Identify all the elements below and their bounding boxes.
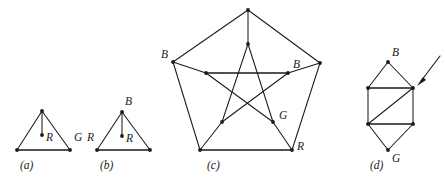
panel-c-outer-edges — [173, 10, 320, 150]
vertex-inner-upper-left — [204, 71, 208, 75]
vertex-inner-top — [246, 42, 250, 46]
vertex-inner-lower-left — [220, 120, 224, 124]
edge-outer-top-upper-right — [248, 10, 320, 63]
arrow-shaft — [421, 56, 440, 81]
panel-a: R G (a) — [15, 109, 83, 172]
panel-c-inner-edges — [206, 44, 288, 122]
figure-canvas: R G (a) B R R (b) — [0, 0, 445, 186]
vertex-label-b: B — [125, 95, 132, 107]
vertex-bottom — [386, 148, 390, 152]
edge-outer-upper-right-lower-right — [292, 63, 320, 150]
edge-apex-right — [122, 112, 150, 150]
panel-b-nodes — [95, 110, 152, 152]
edge-diagonal-chord — [368, 88, 413, 124]
vertex-apex — [120, 110, 124, 114]
vertex-lower-right — [411, 122, 415, 126]
panel-b-edges — [97, 112, 150, 150]
vertex-outer-upper-right — [318, 61, 322, 65]
vertex-upper-left — [366, 86, 370, 90]
vertex-inner-lower-right — [271, 120, 275, 124]
edge-inner-top-lower-right — [248, 44, 273, 122]
panel-d-edges — [368, 62, 413, 150]
edge-outer-upper-left-lower-left — [173, 62, 200, 150]
vertex-top — [386, 60, 390, 64]
vertex-apex — [40, 109, 44, 113]
vertex-label-r-left: R — [86, 131, 94, 143]
caption-a: (a) — [20, 159, 34, 172]
vertex-label-g: G — [392, 152, 401, 164]
vertex-outer-lower-left — [198, 148, 202, 152]
vertex-outer-upper-left — [171, 60, 175, 64]
vertex-left — [15, 148, 19, 152]
vertex-label-b-inner: B — [293, 58, 300, 70]
vertex-center — [40, 133, 44, 137]
vertex-outer-top — [246, 8, 250, 12]
edge-spoke-upper-left — [173, 62, 206, 73]
vertex-label-b: B — [392, 46, 399, 58]
edge-inner-upper-left-lower-right — [206, 73, 273, 122]
edge-top-upper-left — [368, 62, 388, 88]
vertex-outer-lower-right — [290, 148, 294, 152]
edge-apex-left — [17, 111, 42, 150]
graph-coloring-figure: R G (a) B R R (b) — [0, 0, 445, 186]
vertex-right — [148, 148, 152, 152]
edge-top-upper-right — [388, 62, 413, 88]
vertex-upper-right — [411, 86, 415, 90]
panel-a-edges — [17, 111, 70, 150]
vertex-label-r: R — [45, 131, 53, 143]
vertex-inner-upper-right — [286, 71, 290, 75]
edge-apex-left — [97, 112, 122, 150]
panel-c: B B G R (c) — [161, 8, 322, 172]
panel-a-nodes — [15, 109, 72, 152]
panel-b: B R R (b) — [86, 95, 152, 172]
vertex-label-r-center: R — [125, 132, 133, 144]
edge-spoke-lower-right — [273, 122, 292, 150]
vertex-lower-left — [366, 122, 370, 126]
caption-c: (c) — [207, 159, 220, 172]
vertex-label-r: R — [296, 140, 304, 152]
edge-inner-top-lower-left — [222, 44, 248, 122]
arrow-head — [417, 77, 426, 86]
panel-c-spoke-edges — [173, 10, 320, 150]
pointer-arrow-icon — [417, 56, 440, 86]
edge-spoke-lower-left — [200, 122, 222, 150]
vertex-label-g: G — [74, 131, 83, 143]
caption-d: (d) — [370, 159, 384, 172]
vertex-center — [120, 134, 124, 138]
vertex-left — [95, 148, 99, 152]
panel-d: B G (d) — [366, 46, 440, 172]
vertex-label-g: G — [279, 109, 288, 121]
edge-outer-top-upper-left — [173, 10, 248, 62]
caption-b: (b) — [100, 159, 114, 172]
edge-lower-left-bottom — [368, 124, 388, 150]
vertex-right — [68, 148, 72, 152]
edge-lower-right-bottom — [388, 124, 413, 150]
vertex-label-b-outer: B — [161, 48, 168, 60]
